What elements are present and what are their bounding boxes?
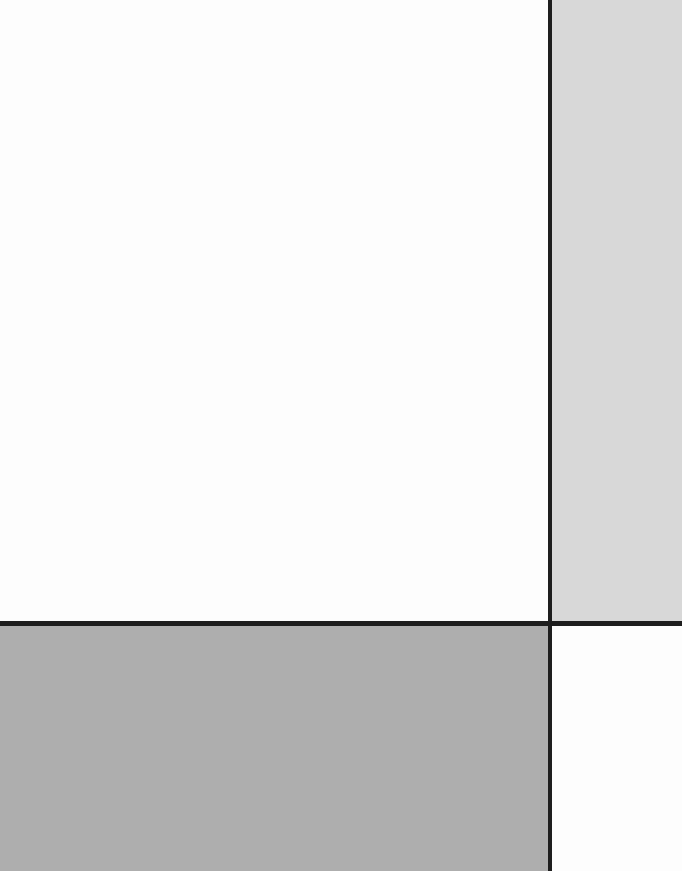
bottom-left-gray-block	[0, 626, 549, 871]
top-right-gray-block	[552, 0, 682, 622]
horizontal-divider-line	[0, 621, 682, 626]
top-left-white-block	[0, 0, 549, 622]
bottom-right-white-block	[552, 626, 682, 871]
vertical-divider-line	[548, 0, 552, 871]
